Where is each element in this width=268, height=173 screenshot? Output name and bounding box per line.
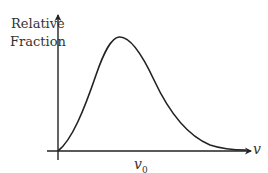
v0-base: v	[134, 156, 142, 172]
y-axis-label-line2: Fraction	[10, 34, 66, 49]
x-axis-label: v	[253, 141, 261, 157]
distribution-curve	[58, 37, 246, 151]
y-axis-label-line1: Relative	[11, 16, 65, 31]
v0-subscript: 0	[142, 165, 148, 173]
v0-marker-label: v0	[134, 156, 148, 173]
